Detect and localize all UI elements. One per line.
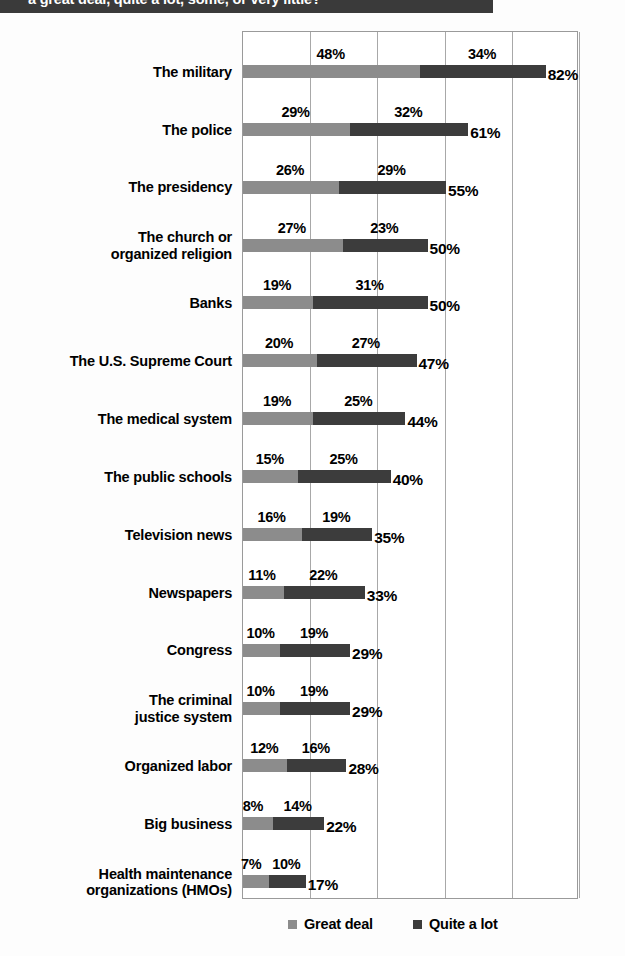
category-label: The presidency — [0, 179, 232, 196]
chart-row: The U.S. Supreme Court20%27%47% — [0, 320, 625, 378]
stacked-bar[interactable] — [243, 586, 365, 599]
bar-segment-quite-a-lot[interactable] — [280, 702, 350, 715]
value-label-total: 40% — [393, 471, 423, 489]
value-label-quite-a-lot: 31% — [355, 277, 383, 293]
stacked-bar[interactable] — [243, 528, 372, 541]
chart-row: The criminaljustice system10%19%29% — [0, 668, 625, 726]
bar-segment-quite-a-lot[interactable] — [339, 181, 446, 194]
value-label-quite-a-lot: 10% — [272, 856, 300, 872]
category-label: The U.S. Supreme Court — [0, 353, 232, 370]
value-label-great-deal: 10% — [246, 625, 274, 641]
bar-segment-quite-a-lot[interactable] — [298, 470, 390, 483]
value-label-total: 33% — [367, 587, 397, 605]
chart-row: Television news16%19%35% — [0, 494, 625, 552]
value-label-quite-a-lot: 14% — [283, 798, 311, 814]
bar-segment-great-deal[interactable] — [243, 586, 284, 599]
legend-item[interactable]: Great deal — [288, 916, 373, 932]
category-label-line: organizations (HMOs) — [0, 882, 232, 899]
bar-segment-great-deal[interactable] — [243, 644, 280, 657]
value-label-quite-a-lot: 19% — [322, 509, 350, 525]
value-label-great-deal: 16% — [258, 509, 286, 525]
bar-segment-quite-a-lot[interactable] — [287, 759, 346, 772]
value-label-quite-a-lot: 25% — [330, 451, 358, 467]
category-label: Television news — [0, 527, 232, 544]
stacked-bar[interactable] — [243, 181, 446, 194]
bar-segment-quite-a-lot[interactable] — [313, 412, 405, 425]
bar-segment-great-deal[interactable] — [243, 528, 302, 541]
value-label-quite-a-lot: 19% — [300, 683, 328, 699]
chart-row: Newspapers11%22%33% — [0, 552, 625, 610]
legend-label: Great deal — [304, 916, 373, 932]
value-label-great-deal: 11% — [248, 567, 275, 583]
category-label: Banks — [0, 295, 232, 312]
value-label-great-deal: 20% — [265, 335, 293, 351]
stacked-bar[interactable] — [243, 644, 350, 657]
value-label-great-deal: 15% — [256, 451, 284, 467]
bar-segment-quite-a-lot[interactable] — [420, 65, 546, 78]
category-label-line: Television news — [0, 527, 232, 544]
stacked-bar[interactable] — [243, 470, 391, 483]
stacked-bar-chart: The military48%34%82%The police29%32%61%… — [0, 0, 625, 956]
bar-segment-great-deal[interactable] — [243, 817, 273, 830]
value-label-great-deal: 19% — [263, 393, 291, 409]
stacked-bar[interactable] — [243, 354, 417, 367]
stacked-bar[interactable] — [243, 702, 350, 715]
category-label-line: The military — [0, 64, 232, 81]
bar-segment-quite-a-lot[interactable] — [269, 875, 306, 888]
value-label-great-deal: 29% — [282, 104, 310, 120]
bar-segment-great-deal[interactable] — [243, 239, 343, 252]
bar-segment-quite-a-lot[interactable] — [343, 239, 428, 252]
chart-row: The public schools15%25%40% — [0, 436, 625, 494]
bar-segment-great-deal[interactable] — [243, 759, 287, 772]
category-label-line: The church or — [0, 229, 232, 246]
bar-segment-great-deal[interactable] — [243, 65, 420, 78]
category-label-line: organized religion — [0, 246, 232, 263]
bar-segment-quite-a-lot[interactable] — [350, 123, 468, 136]
bar-segment-quite-a-lot[interactable] — [313, 296, 427, 309]
value-label-total: 29% — [352, 645, 382, 663]
bar-segment-great-deal[interactable] — [243, 702, 280, 715]
chart-row: The medical system19%25%44% — [0, 378, 625, 436]
legend-item[interactable]: Quite a lot — [413, 916, 498, 932]
bar-segment-quite-a-lot[interactable] — [302, 528, 372, 541]
bar-segment-great-deal[interactable] — [243, 354, 317, 367]
bar-segment-great-deal[interactable] — [243, 296, 313, 309]
chart-row: The church ororganized religion27%23%50% — [0, 205, 625, 263]
bar-segment-great-deal[interactable] — [243, 875, 269, 888]
stacked-bar[interactable] — [243, 875, 306, 888]
legend-label: Quite a lot — [429, 916, 498, 932]
value-label-total: 29% — [352, 703, 382, 721]
stacked-bar[interactable] — [243, 759, 346, 772]
value-label-great-deal: 26% — [276, 162, 304, 178]
bar-segment-quite-a-lot[interactable] — [284, 586, 365, 599]
bar-segment-quite-a-lot[interactable] — [280, 644, 350, 657]
bar-segment-great-deal[interactable] — [243, 412, 313, 425]
value-label-total: 61% — [470, 124, 500, 142]
category-label-line: Health maintenance — [0, 866, 232, 883]
category-label-line: Newspapers — [0, 585, 232, 602]
chart-row: Health maintenanceorganizations (HMOs)7%… — [0, 841, 625, 899]
stacked-bar[interactable] — [243, 239, 428, 252]
bar-segment-great-deal[interactable] — [243, 181, 339, 194]
value-label-quite-a-lot: 19% — [300, 625, 328, 641]
bar-segment-great-deal[interactable] — [243, 123, 350, 136]
value-label-total: 50% — [430, 240, 460, 258]
value-label-total: 50% — [430, 297, 460, 315]
stacked-bar[interactable] — [243, 412, 405, 425]
category-label-line: Big business — [0, 816, 232, 833]
stacked-bar[interactable] — [243, 817, 324, 830]
bar-segment-quite-a-lot[interactable] — [317, 354, 417, 367]
stacked-bar[interactable] — [243, 296, 428, 309]
value-label-quite-a-lot: 23% — [370, 220, 398, 236]
value-label-total: 47% — [419, 355, 449, 373]
bar-segment-great-deal[interactable] — [243, 470, 298, 483]
value-label-total: 22% — [326, 818, 356, 836]
category-label-line: Organized labor — [0, 758, 232, 775]
category-label-line: The presidency — [0, 179, 232, 196]
category-label: Congress — [0, 642, 232, 659]
stacked-bar[interactable] — [243, 65, 546, 78]
stacked-bar[interactable] — [243, 123, 468, 136]
value-label-great-deal: 48% — [317, 46, 345, 62]
chart-row: Congress10%19%29% — [0, 610, 625, 668]
bar-segment-quite-a-lot[interactable] — [273, 817, 325, 830]
